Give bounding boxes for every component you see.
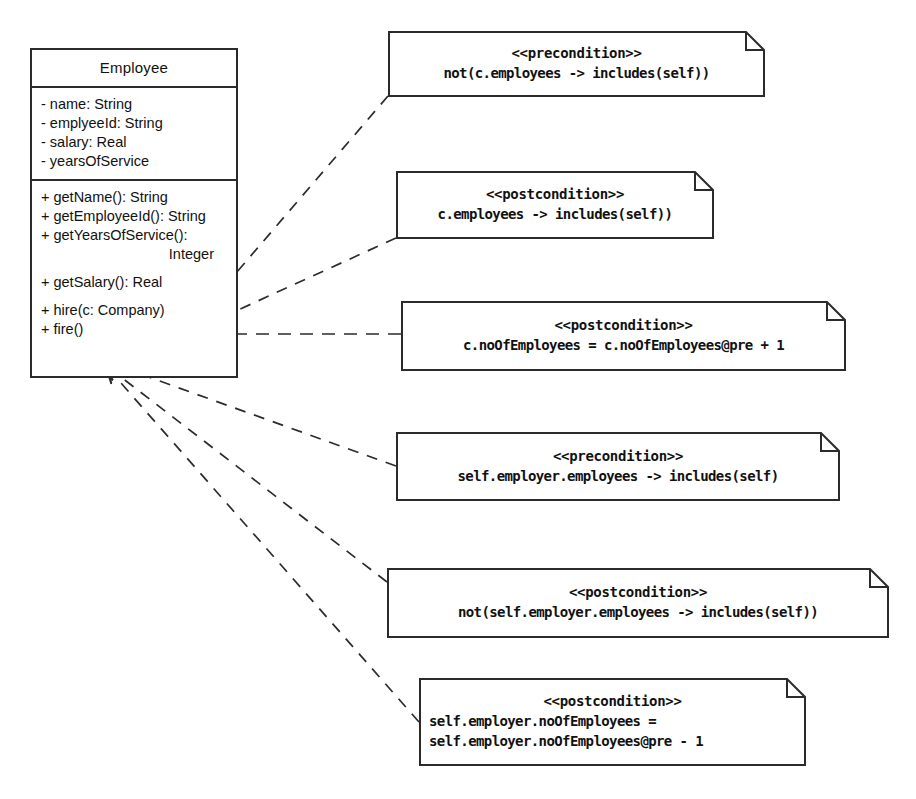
note-constraint-line: self.employer.noOfEmployees@pre - 1 [429, 731, 796, 751]
class-attribute: - name: String [32, 95, 236, 114]
note-body: <<postcondition>> self.employer.noOfEmpl… [419, 678, 806, 766]
note-body: <<postcondition>> not(self.employer.empl… [387, 568, 889, 638]
connector-fire-postcondition-not-includes [104, 364, 387, 582]
connector-fire-postcondition-count [106, 366, 419, 722]
class-operation-get-years-of-service-return-type: Integer [32, 245, 236, 264]
note-stereotype: <<precondition>> [406, 446, 830, 466]
note-stereotype: <<postcondition>> [406, 184, 704, 204]
note-postcondition-hire-includes[interactable]: <<postcondition>> c.employees -> include… [396, 171, 714, 239]
class-operation-hire: + hire(c: Company) [32, 301, 236, 320]
class-attribute: - yearsOfService [32, 152, 236, 171]
note-stereotype: <<postcondition>> [411, 315, 836, 335]
note-body: <<postcondition>> c.noOfEmployees = c.no… [401, 301, 846, 371]
class-operation-get-salary: + getSalary(): Real [32, 273, 236, 292]
note-constraint-line: self.employer.employees -> includes(self… [406, 466, 830, 486]
note-body: <<precondition>> not(c.employees -> incl… [388, 31, 765, 97]
note-stereotype: <<precondition>> [398, 43, 755, 63]
class-box-employee[interactable]: Employee - name: String - emplyeeId: Str… [30, 48, 238, 378]
note-precondition-hire-not-includes[interactable]: <<precondition>> not(c.employees -> incl… [388, 31, 765, 97]
class-operation-get-years-of-service: + getYearsOfService(): [32, 226, 236, 245]
class-attribute: - salary: Real [32, 133, 236, 152]
class-operations-compartment: + getName(): String + getEmployeeId(): S… [32, 181, 236, 347]
note-stereotype: <<postcondition>> [429, 691, 796, 711]
note-body: <<postcondition>> c.employees -> include… [396, 171, 714, 239]
note-postcondition-fire-not-includes[interactable]: <<postcondition>> not(self.employer.empl… [387, 568, 889, 638]
class-operation-fire: + fire() [32, 320, 236, 339]
class-operation-get-employee-id: + getEmployeeId(): String [32, 207, 236, 226]
class-attribute: - emplyeeId: String [32, 114, 236, 133]
note-postcondition-hire-count[interactable]: <<postcondition>> c.noOfEmployees = c.no… [401, 301, 846, 371]
note-stereotype: <<postcondition>> [397, 582, 879, 602]
class-name: Employee [100, 59, 168, 76]
note-body: <<precondition>> self.employer.employees… [396, 432, 840, 501]
class-attributes-compartment: - name: String - emplyeeId: String - sal… [32, 88, 236, 181]
note-constraint-line: not(c.employees -> includes(self)) [398, 63, 755, 83]
note-constraint-line: c.noOfEmployees = c.noOfEmployees@pre + … [411, 335, 836, 355]
diagram-canvas: Employee - name: String - emplyeeId: Str… [0, 0, 916, 799]
note-constraint-line: c.employees -> includes(self)) [406, 204, 704, 224]
note-precondition-fire-includes[interactable]: <<precondition>> self.employer.employees… [396, 432, 840, 501]
note-postcondition-fire-count[interactable]: <<postcondition>> self.employer.noOfEmpl… [419, 678, 806, 766]
note-constraint-line: self.employer.noOfEmployees = [429, 711, 796, 731]
class-operation-get-name: + getName(): String [32, 188, 236, 207]
note-constraint-line: not(self.employer.employees -> includes(… [397, 602, 879, 622]
class-name-compartment: Employee [32, 50, 236, 88]
